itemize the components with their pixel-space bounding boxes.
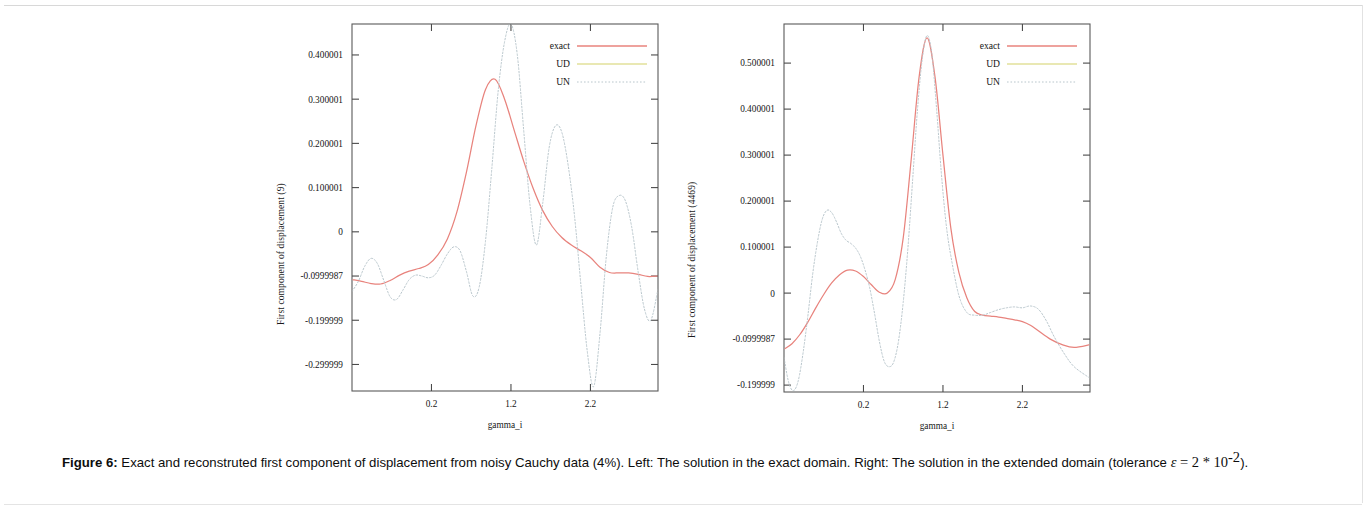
- series-line-exact: [352, 79, 658, 284]
- y-tick-label: -0.299999: [305, 360, 343, 370]
- y-tick-label: 0: [770, 289, 775, 299]
- y-tick-label: -0.199999: [305, 316, 343, 326]
- legend-label-UD: UD: [986, 58, 1000, 69]
- series-line-exact: [784, 38, 1090, 349]
- y-tick-label: -0.0999987: [732, 334, 775, 344]
- series-line-UN: [352, 24, 658, 387]
- y-tick-label: 0.300001: [308, 95, 343, 105]
- y-tick-label: 0: [338, 227, 343, 237]
- y-tick-label: 0.400001: [740, 104, 775, 114]
- y-tick-label: -0.0999987: [300, 271, 343, 281]
- y-tick-label: 0.300001: [740, 150, 775, 160]
- y-tick-label: 0.400001: [308, 50, 343, 60]
- x-tick-label: 0.2: [426, 399, 438, 409]
- y-tick-label: 0.100001: [740, 242, 775, 252]
- y-tick-label: 0.200001: [308, 139, 343, 149]
- caption-equation: = 2 * 10: [1176, 454, 1228, 470]
- legend-label-UD: UD: [556, 58, 570, 69]
- chart-right: First component of displacement (4469) 0…: [678, 8, 1108, 438]
- chart-right-canvas: 0.5000010.4000010.3000010.2000010.100001…: [678, 8, 1108, 438]
- y-tick-label: 0.100001: [308, 183, 343, 193]
- figure-label: Figure 6:: [62, 455, 118, 470]
- x-axis-label: gamma_i: [920, 421, 955, 431]
- scan-rule-bottom: [4, 504, 1362, 505]
- chart-left: First component of displacement (9) 0.40…: [262, 8, 682, 438]
- x-tick-label: 1.2: [505, 399, 517, 409]
- caption-line-1: Exact and reconstruted first component o…: [121, 455, 964, 470]
- x-tick-label: 2.2: [585, 399, 597, 409]
- legend-label-exact: exact: [550, 40, 571, 51]
- y-tick-label: 0.200001: [740, 196, 775, 206]
- series-group: [352, 24, 658, 387]
- chart-frame: [352, 24, 658, 391]
- y-tick-label: -0.199999: [737, 380, 775, 390]
- chart-frame: [784, 24, 1090, 392]
- x-tick-label: 2.2: [1017, 400, 1029, 410]
- figure-page: First component of displacement (9) 0.40…: [0, 0, 1366, 508]
- y-tick-label: 0.500001: [740, 58, 775, 68]
- legend-label-exact: exact: [980, 40, 1001, 51]
- legend-label-UN: UN: [556, 76, 570, 87]
- chart-left-canvas: 0.4000010.3000010.2000010.1000010-0.0999…: [262, 8, 682, 438]
- figure-caption: Figure 6: Exact and reconstruted first c…: [62, 443, 1307, 477]
- x-axis-label: gamma_i: [488, 420, 523, 430]
- scan-rule-top: [4, 5, 1362, 6]
- caption-line-2-post: ).: [1240, 455, 1248, 470]
- caption-exponent: -2: [1228, 449, 1240, 465]
- x-tick-label: 1.2: [937, 400, 949, 410]
- x-tick-label: 0.2: [858, 400, 870, 410]
- legend-label-UN: UN: [986, 76, 1000, 87]
- series-group: [784, 35, 1090, 390]
- caption-line-2-pre: in the extended domain (tolerance: [968, 455, 1167, 470]
- figure-plots: First component of displacement (9) 0.40…: [0, 8, 1366, 438]
